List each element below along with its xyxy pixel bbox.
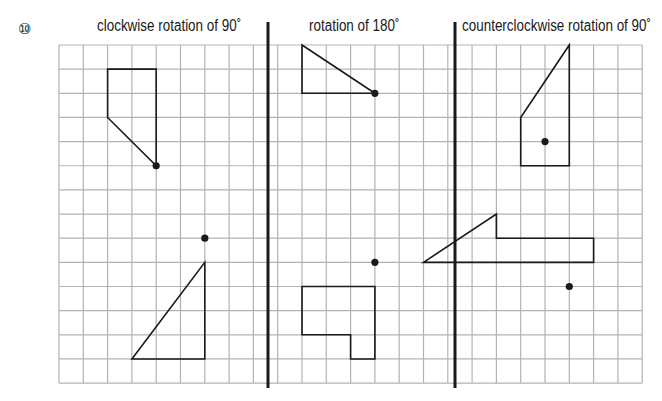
panel2-lower-shape (302, 287, 375, 359)
panel3-upper-rotation-center-dot (541, 138, 548, 145)
panel3-lower-rotation-center-dot (566, 283, 573, 290)
panel1-lower-rotation-center-dot (201, 235, 208, 242)
panel1-upper-rotation-center-dot (153, 162, 160, 169)
panel2-upper-rotation-center-dot (371, 90, 378, 97)
panel2-lower-rotation-center-dot (371, 259, 378, 266)
rotation-grid (0, 0, 662, 401)
